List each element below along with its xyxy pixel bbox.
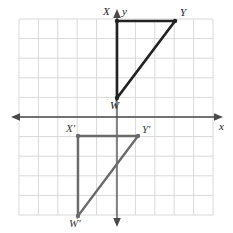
coordinate-plane-canvas — [0, 0, 233, 233]
vertex-label-X-prime: X' — [66, 123, 75, 134]
vertex-label-Y-prime: Y' — [142, 124, 150, 135]
vertex-label-X: X — [103, 6, 110, 17]
x-axis-label: x — [219, 121, 224, 132]
vertex-point-X-prime — [76, 134, 80, 138]
y-axis-label: y — [122, 6, 127, 17]
coordinate-plane-figure: X Y W X' Y' W' y x — [0, 0, 233, 233]
triangle-WXY — [115, 19, 177, 100]
x-axis-left-arrow — [11, 113, 20, 121]
y-axis-up-arrow — [113, 9, 121, 18]
shape-layer — [76, 19, 177, 218]
vertex-label-Y: Y — [180, 7, 186, 18]
triangle-WXY-outline — [117, 21, 175, 98]
vertex-point-X — [115, 19, 119, 23]
vertex-point-Y — [173, 19, 177, 23]
vertex-label-W-prime: W' — [69, 218, 81, 229]
vertex-label-W: W — [110, 100, 119, 111]
y-axis-down-arrow — [113, 218, 121, 227]
vertex-point-Y-prime — [136, 134, 140, 138]
